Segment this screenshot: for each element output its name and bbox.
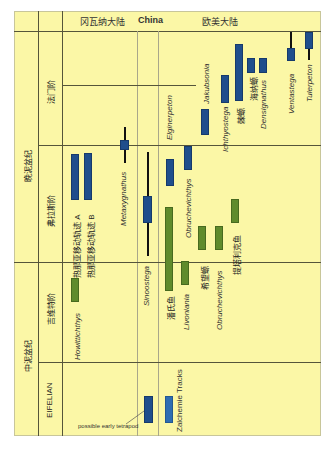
acanthostega-label: 棘螈 bbox=[235, 108, 246, 124]
sinostega-bar bbox=[143, 196, 152, 223]
famennian-subdivision-line bbox=[62, 85, 196, 86]
zalchemie-tracks-bar bbox=[165, 396, 173, 423]
stage-column-divider bbox=[62, 11, 63, 436]
ventastega-label: Ventastega bbox=[287, 74, 296, 114]
livoniania-bar bbox=[181, 261, 189, 285]
livoniania-label: Livoniania bbox=[182, 294, 191, 330]
obruchevichthys-green-bar bbox=[215, 226, 223, 250]
header-gondwana: 冈瓦纳大陆 bbox=[80, 15, 125, 28]
obruchevichthys-green-label: Obruchevichthys bbox=[215, 270, 224, 330]
stage-eifelian: EIFELIAN bbox=[45, 382, 54, 418]
track-b-bar bbox=[84, 153, 92, 200]
elginerpeton-label: Elginerpeton bbox=[165, 95, 174, 140]
howittichthys-bar bbox=[71, 278, 79, 302]
epoch-late-devonian: 晚泥盆纪 bbox=[22, 150, 33, 182]
tulerpeton-bar bbox=[305, 32, 313, 49]
howittichthys-label: Howittichthys bbox=[73, 313, 82, 360]
header-china: China bbox=[138, 15, 163, 25]
obruchevichthys-blue-bar bbox=[184, 146, 192, 170]
jakubsonia-label: Jakubsonia bbox=[202, 64, 211, 104]
panderichthys-label: 潘氏鱼 bbox=[165, 296, 176, 320]
epoch-middle-devonian: 中泥盆纪 bbox=[22, 340, 33, 372]
sinostega-label: Sinoostega bbox=[142, 266, 151, 306]
tiktaalik-label: 提塔利克鱼 bbox=[231, 235, 242, 275]
header-divider bbox=[14, 31, 321, 32]
acanthostega-bar bbox=[235, 44, 243, 101]
famennian-frasnian-boundary bbox=[38, 145, 321, 146]
tiktaalik-bar bbox=[231, 199, 239, 223]
tulerpeton-label: Tulerpeton bbox=[305, 64, 314, 102]
header-china-text: China bbox=[138, 15, 163, 25]
stage-givetian: 吉维特阶 bbox=[45, 293, 56, 325]
zalchemie-tracks-label: Zalchemie Tracks bbox=[175, 369, 184, 432]
epoch-column-divider bbox=[38, 11, 39, 436]
stage-famennian: 法门阶 bbox=[45, 80, 56, 104]
hynerpeton-bar bbox=[247, 58, 255, 73]
header-euramerica: 欧美大陆 bbox=[202, 15, 238, 28]
hope-label: 希望螈 bbox=[199, 266, 210, 290]
china-right-divider bbox=[158, 31, 159, 436]
obruchevichthys-blue-label: Obruchevichthys bbox=[184, 178, 193, 238]
ichthyostega-label: Ichthyostega bbox=[221, 107, 230, 152]
metaxygnathus-bar bbox=[120, 140, 129, 150]
stage-frasnian: 弗拉斯阶 bbox=[45, 195, 56, 227]
panderichthys-bar bbox=[165, 207, 173, 291]
devonian-tetrapod-range-chart: 冈瓦纳大陆 China 欧美大陆 晚泥盆纪 中泥盆纪 法门阶 弗拉斯阶 吉维特阶… bbox=[0, 0, 333, 449]
densignathus-bar bbox=[259, 58, 267, 73]
jakubsonia-bar bbox=[201, 109, 209, 135]
china-left-divider bbox=[137, 31, 138, 436]
elginerpeton-bar bbox=[166, 159, 174, 186]
ventastega-bar bbox=[287, 48, 295, 61]
track-a-bar bbox=[71, 154, 79, 200]
hynerpeton-label: 海纳螈 bbox=[248, 77, 259, 101]
possible-early-tetrapod-pointer bbox=[124, 410, 146, 426]
densignathus-label: Densignathus bbox=[259, 80, 268, 129]
givetian-eifelian-boundary bbox=[38, 362, 321, 363]
track-a-label: 热那亚移动轨迹 A bbox=[71, 214, 82, 278]
track-b-label: 热那亚移动轨迹 B bbox=[85, 214, 96, 278]
metaxygnathus-label: Metaxygnathus bbox=[119, 172, 128, 226]
ichthyostega-like-hope-bar bbox=[198, 226, 206, 250]
ichthyostega-bar bbox=[221, 75, 229, 103]
